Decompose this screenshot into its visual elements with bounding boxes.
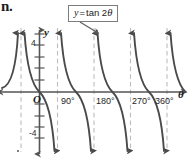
equation-callout: y=tan 2θ	[68, 5, 118, 22]
tangent-branch-neg90-partial	[2, 33, 18, 88]
callout-leader-line	[80, 22, 98, 33]
callout-leader-group	[80, 22, 98, 33]
x-tick-label-360: 360°	[155, 96, 174, 106]
tangent-branch-360	[171, 33, 186, 92]
origin-label: O	[33, 93, 41, 105]
callout-theta-symbol: θ	[107, 7, 112, 18]
asymptote-group	[21, 28, 167, 152]
y-tick-label-neg4: -4	[29, 128, 37, 138]
x-tick-label-90: 90°	[61, 96, 75, 106]
theta-axis-label: θ	[178, 88, 184, 100]
tangent-graph-figure: n.	[0, 0, 189, 159]
x-tick-label-270: 270°	[132, 96, 151, 106]
x-tick-label-180: 180°	[96, 96, 115, 106]
y-tick-label-4: 4	[31, 38, 36, 48]
callout-equals-sign: =	[78, 7, 86, 18]
callout-function-name: tan 2	[86, 7, 107, 18]
y-axis-label: y	[44, 26, 49, 38]
